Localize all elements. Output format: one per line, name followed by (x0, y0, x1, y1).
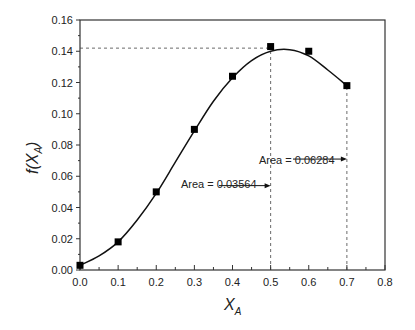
x-tick-label: 0.6 (301, 276, 316, 288)
y-tick-label: 0.12 (52, 77, 73, 89)
data-point-marker (115, 238, 122, 245)
y-tick-label: 0.04 (52, 202, 73, 214)
x-tick-label: 0.7 (339, 276, 354, 288)
y-tick-label: 0.10 (52, 108, 73, 120)
data-point-marker (343, 82, 350, 89)
data-point-marker (267, 43, 274, 50)
x-tick-label: 0.0 (72, 276, 87, 288)
data-point-marker (229, 73, 236, 80)
x-tick-label: 0.4 (225, 276, 240, 288)
data-point-marker (305, 48, 312, 55)
x-tick-label: 0.5 (263, 276, 278, 288)
x-axis-title: XA (223, 296, 242, 317)
data-point-marker (191, 126, 198, 133)
data-point-marker (77, 262, 84, 269)
y-tick-label: 0.16 (52, 14, 73, 26)
plot-frame (80, 20, 385, 270)
arrowhead-icon (265, 183, 271, 188)
axis-ticks: 0.00.10.20.30.40.50.60.70.80.000.020.040… (52, 14, 393, 288)
chart: 0.00.10.20.30.40.50.60.70.80.000.020.040… (0, 0, 415, 330)
y-axis-title: f(XA) (24, 142, 44, 174)
annotation-area-1: Area = 0.03564 (181, 178, 257, 190)
y-tick-label: 0.06 (52, 170, 73, 182)
x-tick-label: 0.2 (149, 276, 164, 288)
arrowhead-icon (341, 157, 347, 162)
svg-text:f(XA): f(XA) (24, 142, 44, 174)
y-tick-label: 0.08 (52, 139, 73, 151)
y-tick-label: 0.02 (52, 233, 73, 245)
annotation-area-2: Area = 0.06284 (259, 154, 335, 166)
y-tick-label: 0.14 (52, 45, 73, 57)
data-point-marker (153, 188, 160, 195)
plot-area (80, 20, 385, 270)
x-tick-label: 0.8 (377, 276, 392, 288)
x-tick-label: 0.3 (187, 276, 202, 288)
x-tick-label: 0.1 (110, 276, 125, 288)
y-tick-label: 0.00 (52, 264, 73, 276)
